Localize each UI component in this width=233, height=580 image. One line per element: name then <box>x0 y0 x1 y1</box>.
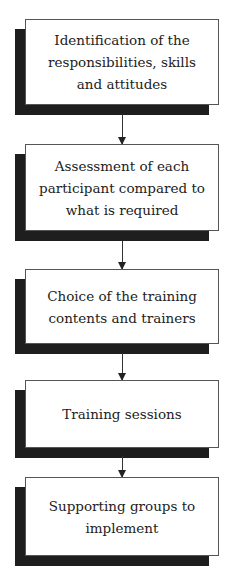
step-box: Assessment of each participant compared … <box>25 144 219 231</box>
step-box: Training sessions <box>25 380 219 448</box>
step-label: Supporting groups to implement <box>34 495 210 539</box>
arrow-down-icon <box>122 353 123 380</box>
flow-step-3: Choice of the training contents and trai… <box>25 269 219 344</box>
arrow-down-icon <box>122 456 123 477</box>
flow-step-2: Assessment of each participant compared … <box>25 144 219 231</box>
step-box: Identification of the responsibilities, … <box>25 19 219 105</box>
step-label: Choice of the training contents and trai… <box>34 285 210 329</box>
flow-step-4: Training sessions <box>25 380 219 448</box>
step-label: Assessment of each participant compared … <box>34 155 210 221</box>
step-label: Training sessions <box>62 403 181 425</box>
arrow-down-icon <box>122 241 123 269</box>
step-label: Identification of the responsibilities, … <box>34 29 210 95</box>
flow-step-1: Identification of the responsibilities, … <box>25 19 219 105</box>
step-box: Supporting groups to implement <box>25 477 219 556</box>
arrow-down-icon <box>122 115 123 144</box>
flow-step-5: Supporting groups to implement <box>25 477 219 556</box>
step-box: Choice of the training contents and trai… <box>25 269 219 344</box>
